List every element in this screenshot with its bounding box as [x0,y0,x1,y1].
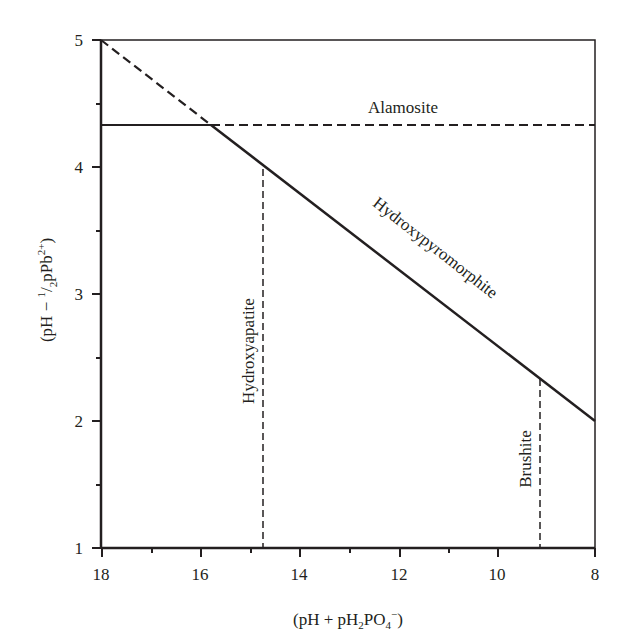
x-tick-label: 8 [591,565,600,584]
y-title-charge: 2+ [35,244,47,256]
y-title-pPb: pPb [37,255,56,281]
y-title-text: (pH − [37,298,56,343]
y-tick-label: 2 [75,412,84,431]
y-tick-label: 1 [75,539,84,558]
x-tick-label: 18 [93,565,110,584]
y-tick-label: 5 [75,31,84,50]
x-tick-label: 14 [291,565,309,584]
hydroxyapatite-label: Hydroxyapatite [239,298,258,404]
y-tick-label: 4 [75,158,84,177]
y-title-close: ) [37,238,56,244]
x-title-PO: PO [364,610,386,629]
x-tick-label: 16 [192,565,209,584]
y-title-sup: 1 [35,292,47,298]
y-ticks [92,40,101,548]
brushite-label: Brushite [516,430,535,488]
hydroxypyromorphite-solid-line [211,125,595,421]
x-title-close: ) [397,610,403,629]
x-ticks [102,548,595,557]
y-title-sub: 2 [47,282,59,288]
alamosite-label: Alamosite [368,98,438,117]
x-axis-title: (pH + pH2PO4−) [293,608,403,631]
hydroxypyromorphite-label: Hydroxypyromorphite [369,193,501,302]
y-title-slash: / [37,287,56,292]
phase-diagram: 1 2 3 4 5 18 16 14 12 10 8 Alamosite Hyd… [0,0,627,639]
x-title-sub4: 4 [386,619,392,631]
y-tick-label: 3 [75,285,84,304]
hydroxypyromorphite-dashed-line [101,40,211,125]
x-tick-label: 10 [489,565,506,584]
x-title-text: (pH + pH [293,610,358,629]
y-axis-title: (pH − 1/2pPb2+) [35,238,58,342]
x-tick-label: 12 [391,565,408,584]
